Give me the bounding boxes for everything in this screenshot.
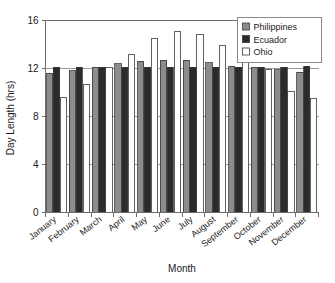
bar (288, 91, 294, 212)
bar (47, 73, 53, 212)
bar (129, 54, 135, 212)
bar (76, 67, 82, 212)
bar (69, 71, 75, 213)
bar (274, 70, 280, 213)
y-tick-label: 16 (27, 15, 39, 26)
chart-container: 0481216 JanuaryFebruaryMarchAprilMayJune… (0, 0, 335, 283)
bar (115, 64, 121, 213)
bar (53, 67, 59, 212)
y-axis-ticks: 0481216 (27, 15, 45, 218)
bar (190, 67, 196, 212)
x-axis-title: Month (168, 263, 196, 274)
chart-legend: PhilippinesEcuadorOhio (238, 18, 322, 63)
bar (151, 39, 157, 213)
y-tick-label: 8 (33, 111, 39, 122)
bar (213, 67, 219, 212)
bar (242, 63, 248, 213)
legend-swatch (243, 23, 250, 30)
bar (220, 46, 226, 213)
bar-chart: 0481216 JanuaryFebruaryMarchAprilMayJune… (0, 0, 335, 283)
bar (229, 66, 235, 212)
legend-label: Ecuador (254, 35, 288, 45)
bar (235, 67, 241, 212)
bar (297, 72, 303, 212)
bar (304, 66, 310, 212)
x-axis-category-labels: JanuaryFebruaryMarchAprilMayJuneJulyAugu… (27, 213, 319, 250)
bar (258, 67, 264, 212)
bar (99, 67, 105, 212)
bar (265, 70, 271, 213)
bar (60, 97, 66, 212)
y-tick-label: 4 (33, 159, 39, 170)
bar (251, 67, 257, 212)
x-category-label: May (130, 214, 150, 233)
bar (92, 67, 98, 212)
bar (281, 67, 287, 212)
bar (138, 61, 144, 212)
bar (83, 84, 89, 212)
y-tick-label: 0 (33, 207, 39, 218)
legend-label: Philippines (254, 22, 298, 32)
bar (167, 67, 173, 212)
bar (160, 60, 166, 212)
x-category-label: June (150, 214, 172, 234)
bar (183, 60, 189, 212)
bar (311, 99, 317, 213)
x-category-label: March (78, 214, 104, 237)
legend-label: Ohio (254, 47, 273, 57)
bar (106, 67, 112, 212)
x-category-label: April (106, 214, 126, 233)
bar (122, 67, 128, 212)
bar (144, 67, 150, 212)
bar (206, 63, 212, 213)
bar (174, 31, 180, 212)
y-tick-label: 12 (27, 63, 39, 74)
legend-swatch (243, 48, 250, 55)
legend-swatch (243, 36, 250, 43)
bar (197, 35, 203, 213)
y-axis-title: Day Length (hrs) (5, 81, 16, 155)
